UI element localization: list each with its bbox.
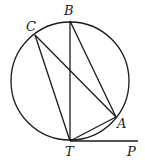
label-A: A	[116, 116, 126, 131]
geometry-diagram: B C A T P	[0, 0, 145, 160]
segment-CT	[35, 35, 70, 141]
label-B: B	[63, 3, 74, 18]
segment-CA	[35, 35, 116, 117]
label-C: C	[26, 19, 36, 34]
segment-BA	[70, 21, 116, 117]
label-P: P	[126, 144, 136, 159]
label-T: T	[65, 144, 75, 159]
segment-TA	[70, 117, 116, 141]
